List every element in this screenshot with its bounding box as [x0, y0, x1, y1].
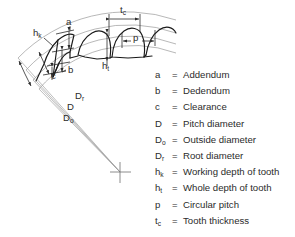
diagram-label-b: b: [68, 64, 73, 75]
root-land-2: [70, 56, 78, 58]
legend-row: D = Pitch diameter: [155, 118, 295, 134]
legend-row: Dr = Root diameter: [155, 150, 295, 166]
gear-tooth-diagram: [0, 0, 180, 237]
legend-row: a = Addendum: [155, 69, 295, 85]
gear-nomenclature-figure: a b c hk ht p tc Dr D Do a = Addendum b …: [0, 0, 295, 237]
tooth-3: [112, 28, 145, 58]
diagram-label-tc: tc: [120, 4, 126, 15]
legend-equals: =: [172, 69, 183, 80]
diagram-label-Dr: Dr: [75, 90, 84, 101]
radial-inner: [39, 89, 120, 172]
legend-symbol: p: [155, 199, 172, 210]
legend-equals: =: [172, 118, 183, 129]
legend-equals: =: [172, 182, 183, 193]
legend-symbol: Do: [155, 134, 172, 145]
legend-symbol: hk: [155, 166, 172, 177]
legend-description: Outside diameter: [183, 134, 256, 145]
legend-symbol: ht: [155, 182, 172, 193]
legend-row: Do = Outside diameter: [155, 134, 295, 150]
legend-row: b = Dedendum: [155, 85, 295, 101]
legend-description: Tooth thickness: [183, 215, 249, 226]
legend-row: c = Clearance: [155, 101, 295, 117]
hk-dimension: [44, 38, 53, 46]
legend-description: Root diameter: [183, 150, 243, 161]
diagram-label-a: a: [66, 16, 71, 27]
legend-symbol: tc: [155, 215, 172, 226]
legend-equals: =: [172, 166, 183, 177]
ext-a-top: [56, 30, 74, 34]
legend-symbol: D: [155, 118, 172, 129]
diagram-label-c: c: [51, 70, 56, 81]
legend-symbol: b: [155, 85, 172, 96]
legend-description: Whole depth of tooth: [183, 182, 272, 193]
legend-description: Pitch diameter: [183, 118, 244, 129]
legend-description: Working depth of tooth: [183, 166, 279, 177]
reference-arcs: [18, 12, 176, 89]
legend-symbol: a: [155, 69, 172, 80]
legend-row: ht = Whole depth of tooth: [155, 182, 295, 198]
legend-equals: =: [172, 134, 183, 145]
legend-symbol: Dr: [155, 150, 172, 161]
diagram-label-D: D: [67, 101, 74, 112]
legend-row: p = Circular pitch: [155, 199, 295, 215]
legend-symbol: c: [155, 101, 172, 112]
diagram-label-hk: hk: [33, 27, 42, 38]
legend-description: Clearance: [183, 101, 227, 112]
legend-equals: =: [172, 199, 183, 210]
legend-description: Addendum: [183, 69, 229, 80]
diagram-label-Do: Do: [63, 112, 74, 123]
nomenclature-legend: a = Addendum b = Dedendum c = Clearance …: [155, 69, 295, 231]
legend-equals: =: [172, 150, 183, 161]
diagram-label-p: p: [133, 32, 138, 43]
legend-row: tc = Tooth thickness: [155, 215, 295, 231]
legend-equals: =: [172, 101, 183, 112]
legend-description: Circular pitch: [183, 199, 239, 210]
diagram-label-ht: ht: [102, 60, 109, 71]
legend-equals: =: [172, 85, 183, 96]
legend-description: Dedendum: [183, 85, 230, 96]
legend-row: hk = Working depth of tooth: [155, 166, 295, 182]
legend-equals: =: [172, 215, 183, 226]
